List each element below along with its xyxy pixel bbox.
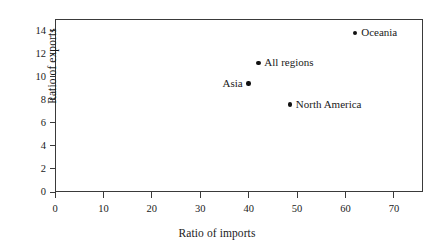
x-tick-label: 10 — [83, 203, 123, 214]
y-tick-label: 2 — [41, 161, 46, 177]
y-tick-label: 10 — [36, 69, 47, 85]
y-tick-label: 8 — [41, 92, 46, 108]
y-tick-mark — [50, 99, 55, 100]
x-tick-mark — [103, 192, 104, 198]
x-tick-label: 70 — [374, 203, 414, 214]
x-tick-label: 30 — [180, 203, 220, 214]
x-tick-label: 20 — [132, 203, 172, 214]
y-tick-label: 12 — [36, 46, 47, 62]
point-label: North America — [296, 98, 362, 110]
x-tick-mark — [345, 192, 346, 198]
x-tick-label: 0 — [35, 203, 75, 214]
y-tick-mark — [50, 168, 55, 169]
x-tick-mark — [200, 192, 201, 198]
y-tick-mark — [50, 53, 55, 54]
point-marker-icon — [288, 102, 292, 106]
point-label: All regions — [264, 56, 313, 68]
x-tick-mark — [151, 192, 152, 198]
x-tick-label: 60 — [326, 203, 366, 214]
x-tick-mark — [55, 192, 56, 198]
point-label: Oceania — [361, 26, 397, 38]
point-marker-icon — [246, 81, 250, 85]
y-tick-mark — [50, 122, 55, 123]
point-label: Asia — [223, 77, 243, 89]
x-tick-mark — [248, 192, 249, 198]
y-axis-label: Ratio of exports — [46, 6, 58, 126]
x-tick-label: 40 — [229, 203, 269, 214]
y-tick-mark — [50, 145, 55, 146]
x-tick-mark — [393, 192, 394, 198]
scatter-plot-figure: Ratio of exports Ratio of imports 024681… — [0, 0, 434, 249]
x-tick-label: 50 — [277, 203, 317, 214]
y-tick-label: 14 — [36, 23, 47, 39]
y-tick-mark — [50, 30, 55, 31]
y-tick-label: 0 — [41, 184, 46, 200]
y-tick-label: 4 — [41, 138, 46, 154]
y-tick-label: 6 — [41, 115, 46, 131]
x-tick-mark — [297, 192, 298, 198]
point-marker-icon — [256, 61, 260, 65]
plot-area — [55, 19, 423, 192]
y-tick-mark — [50, 76, 55, 77]
x-axis-label: Ratio of imports — [0, 227, 434, 239]
